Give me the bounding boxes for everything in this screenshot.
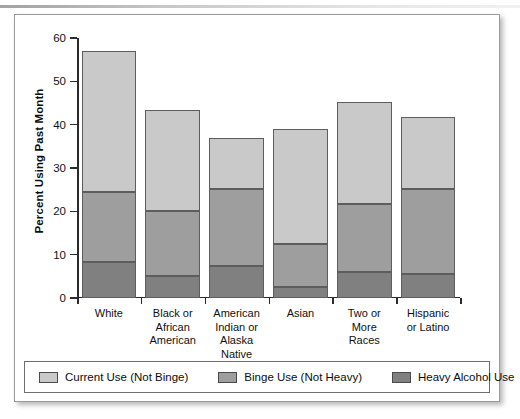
x-axis-label-line: Alaska [205,334,269,348]
x-tick [332,298,334,304]
bar-stack [82,51,137,298]
x-axis-label-line: Two or [332,307,396,321]
x-tick [77,298,79,304]
bar-stack [273,129,328,298]
legend-swatch [218,372,237,383]
legend-item: Current Use (Not Binge) [39,371,188,383]
x-axis-label-line: Asian [269,307,333,321]
y-tick-label: 10 [53,249,66,261]
x-axis-label-line: American [141,334,205,348]
y-tick [70,81,77,83]
page-top-rule [0,5,520,8]
bar-group [77,38,460,298]
x-axis-label: Hispanicor Latino [396,307,460,334]
bar-segment [209,189,264,266]
x-axis-label-line: African [141,321,205,335]
y-tick-label: 30 [53,162,66,174]
legend-label: Current Use (Not Binge) [65,371,188,383]
bar-segment [145,211,200,276]
bar-segment [401,117,456,189]
bar-segment [145,110,200,211]
bar-segment [273,287,328,298]
legend-item: Binge Use (Not Heavy) [218,371,362,383]
figure-panel: Percent Using Past Month 0102030405060 W… [14,14,500,402]
chart-legend: Current Use (Not Binge)Binge Use (Not He… [24,361,490,393]
bar-segment [337,102,392,204]
x-axis-label-line: More [332,321,396,335]
y-tick-label: 20 [53,205,66,217]
x-axis-label: AmericanIndian orAlaskaNative [205,307,269,361]
y-tick [70,37,77,39]
bar-stack [337,102,392,298]
y-tick [70,124,77,126]
legend-swatch [392,372,411,383]
y-tick-label: 60 [53,32,66,44]
x-axis-label-line: Races [332,334,396,348]
plot-canvas: 0102030405060 [77,38,460,298]
legend-label: Heavy Alcohol Use [418,371,515,383]
bar-segment [337,204,392,272]
y-tick [70,167,77,169]
x-axis-label-line: Indian or [205,321,269,335]
x-axis-label: White [77,307,141,321]
bar-segment [209,266,264,298]
bar-segment [82,262,137,298]
bar-segment [273,244,328,287]
x-tick [205,298,207,304]
plot-area: Percent Using Past Month 0102030405060 W… [15,15,501,355]
x-axis-label-line: Native [205,348,269,362]
x-axis-label-line: or Latino [396,321,460,335]
bar-stack [209,138,264,298]
bar-stack [401,117,456,298]
x-axis-label-line: White [77,307,141,321]
y-tick-label: 50 [53,75,66,87]
x-tick [269,298,271,304]
x-axis-label-line: Black or [141,307,205,321]
bar-segment [209,138,264,189]
x-tick [396,298,398,304]
y-axis-title: Percent Using Past Month [33,61,45,261]
bar-segment [82,51,137,192]
bar-segment [145,276,200,298]
x-tick [141,298,143,304]
bar-segment [401,189,456,274]
bar-stack [145,110,200,298]
y-tick-label: 0 [60,292,66,304]
bar-segment [337,272,392,298]
x-axis-label: Asian [269,307,333,321]
x-axis-label-line: American [205,307,269,321]
bar-segment [273,129,328,243]
legend-item: Heavy Alcohol Use [392,371,515,383]
y-tick [70,297,77,299]
x-axis-label: Two orMoreRaces [332,307,396,348]
y-tick [70,254,77,256]
bar-segment [82,192,137,262]
x-tick [460,298,462,304]
x-axis-label: Black orAfricanAmerican [141,307,205,348]
legend-label: Binge Use (Not Heavy) [244,371,362,383]
bar-segment [401,274,456,298]
x-axis-label-line: Hispanic [396,307,460,321]
x-axis-labels: WhiteBlack orAfricanAmericanAmericanIndi… [77,307,460,355]
y-tick [70,211,77,213]
y-tick-label: 40 [53,119,66,131]
legend-swatch [39,372,58,383]
